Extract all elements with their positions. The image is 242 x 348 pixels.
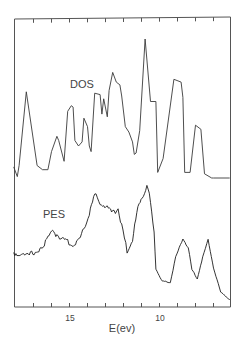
dos-label: DOS <box>70 78 94 90</box>
bottom-axis-ticks <box>34 303 214 307</box>
tick-label-15: 15 <box>65 313 75 323</box>
tick-label-10: 10 <box>155 313 165 323</box>
x-axis-label: E(ev) <box>109 322 135 334</box>
chart-canvas: DOS PES 15 10 E(ev) <box>0 0 242 348</box>
dos-curve <box>14 39 230 178</box>
spectrum-figure: DOS PES 15 10 E(ev) <box>0 0 242 348</box>
plot-frame <box>15 17 231 307</box>
top-axis-ticks <box>34 17 214 23</box>
pes-curve <box>14 185 230 300</box>
pes-label: PES <box>43 208 65 220</box>
